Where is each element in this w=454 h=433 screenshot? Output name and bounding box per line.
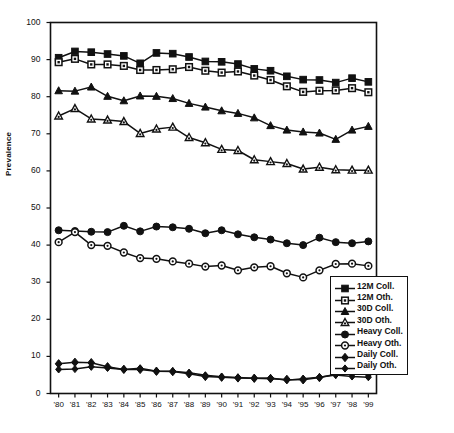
y-tick-label: 60 [15, 165, 41, 175]
legend-label: 12M Oth. [356, 292, 393, 302]
data-point-open-circle [365, 262, 372, 269]
data-point-open-square [235, 68, 242, 75]
data-point-filled-circle [186, 225, 193, 232]
legend-item-heavy-coll[interactable]: Heavy Coll. [334, 326, 403, 337]
data-point-open-triangle [120, 118, 128, 125]
data-point-open-square [316, 87, 323, 94]
legend-item-30d-coll[interactable]: 30D Coll. [334, 303, 403, 314]
data-point-open-triangle [153, 125, 161, 132]
series-line [59, 87, 369, 139]
legend-marker-open-triangle-icon [334, 314, 356, 325]
series-line [59, 109, 369, 171]
data-point-filled-square [235, 61, 242, 68]
data-point-filled-square [300, 76, 307, 83]
data-point-open-circle [186, 260, 193, 267]
series-heavy-coll [55, 222, 372, 248]
data-point-filled-square [349, 75, 356, 82]
data-point-open-circle [300, 274, 307, 281]
legend-marker-filled-diamond-small-icon [334, 360, 356, 371]
legend-item-12m-oth[interactable]: 12M Oth. [334, 291, 403, 302]
data-point-filled-square [251, 66, 258, 73]
data-point-filled-circle [283, 240, 290, 247]
data-point-filled-square [121, 53, 128, 60]
data-point-open-triangle [234, 146, 242, 153]
data-point-open-circle [153, 255, 160, 262]
data-point-open-square [284, 83, 291, 90]
data-point-open-square [186, 64, 193, 71]
legend-label: Heavy Oth. [356, 338, 401, 348]
y-tick-label: 40 [15, 239, 41, 249]
x-tick-label: '99 [357, 400, 379, 409]
data-point-open-triangle [316, 163, 324, 170]
data-point-filled-diamond-small [342, 365, 348, 372]
y-tick-label: 30 [15, 276, 41, 286]
legend-item-12m-coll[interactable]: 12M Coll. [334, 280, 403, 291]
legend-marker-open-circle-icon [334, 337, 356, 348]
data-point-open-circle [349, 260, 356, 267]
y-tick-label: 70 [15, 128, 41, 138]
data-point-filled-circle [316, 234, 323, 241]
data-point-filled-square [316, 77, 323, 84]
data-point-filled-square [284, 73, 291, 80]
data-point-open-triangle [71, 105, 79, 112]
plot-frame [51, 23, 377, 394]
data-point-open-circle [235, 267, 242, 274]
data-point-filled-square [365, 79, 372, 86]
data-point-filled-square [88, 49, 95, 56]
y-tick-label: 50 [15, 202, 41, 212]
data-point-filled-square [218, 59, 225, 66]
data-point-filled-square [267, 67, 274, 74]
series-30d-coll [55, 83, 372, 142]
data-point-filled-square [72, 48, 79, 55]
legend-item-daily-oth[interactable]: Daily Oth. [334, 360, 403, 371]
y-tick-label: 100 [15, 17, 41, 27]
data-point-filled-circle [120, 222, 127, 229]
data-point-open-triangle [348, 166, 356, 173]
data-point-filled-circle [267, 236, 274, 243]
legend-item-heavy-oth[interactable]: Heavy Oth. [334, 337, 403, 348]
data-point-open-circle [251, 264, 258, 271]
data-point-filled-diamond-small [153, 368, 159, 375]
data-point-open-square [267, 77, 274, 84]
data-point-filled-circle [251, 234, 258, 241]
y-tick-label: 0 [15, 388, 41, 398]
data-point-open-square [72, 56, 79, 63]
data-point-filled-circle [169, 224, 176, 231]
legend-label: 30D Coll. [356, 303, 393, 313]
data-point-open-circle [55, 239, 62, 246]
data-point-open-triangle [332, 166, 340, 173]
data-point-open-circle [218, 262, 225, 269]
legend-marker-open-square-icon [334, 292, 356, 303]
data-point-open-triangle [136, 129, 144, 136]
y-axis-title: Prevalence [4, 132, 13, 176]
data-point-filled-diamond-small [56, 366, 62, 373]
data-point-open-triangle [218, 145, 226, 152]
data-point-filled-diamond-small [72, 365, 78, 372]
data-point-filled-triangle [87, 83, 95, 90]
data-point-filled-circle [137, 228, 144, 235]
data-point-open-circle [120, 249, 127, 256]
data-point-filled-diamond-small [251, 375, 257, 382]
data-point-filled-circle [104, 229, 111, 236]
data-point-open-circle [88, 242, 95, 249]
data-point-open-circle [169, 258, 176, 265]
data-point-filled-square [104, 51, 111, 58]
data-point-filled-circle [332, 239, 339, 246]
data-point-open-square [137, 67, 144, 74]
legend-item-30d-oth[interactable]: 30D Oth. [334, 314, 403, 325]
data-point-filled-square [202, 58, 209, 65]
data-point-open-triangle [299, 165, 307, 172]
legend-label: Heavy Coll. [356, 326, 403, 336]
data-point-open-square [202, 67, 209, 74]
legend-marker-filled-square-icon [334, 280, 356, 291]
legend-item-daily-coll[interactable]: Daily Coll. [334, 348, 403, 359]
data-point-open-triangle [202, 139, 210, 146]
data-point-open-triangle [185, 134, 193, 141]
data-point-open-triangle [267, 158, 275, 165]
data-point-open-circle [202, 263, 209, 270]
data-point-filled-circle [153, 223, 160, 230]
data-point-filled-circle [55, 227, 62, 234]
data-point-open-square [153, 67, 160, 74]
data-point-filled-circle [365, 238, 372, 245]
data-point-open-triangle [169, 123, 177, 130]
